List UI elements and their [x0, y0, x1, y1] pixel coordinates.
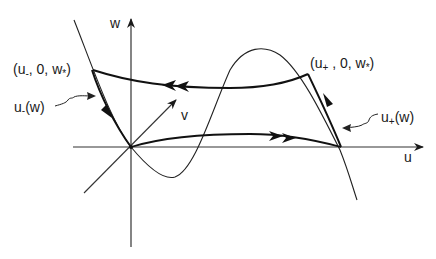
- u-axis-label: u: [404, 149, 412, 165]
- left-branch-label: u-(w): [14, 99, 45, 116]
- upper-connection-orbit: [93, 70, 308, 92]
- origin-point: [129, 145, 133, 149]
- v-axis-label: v: [181, 107, 188, 123]
- lower-connection-orbit: [131, 131, 341, 147]
- phase-space-diagram: w v u (u-, 0, w*) (u+ , 0, w*) u-(w) u+(…: [0, 0, 436, 259]
- left-branch-pointer: [55, 92, 96, 106]
- right-branch-label: u+(w): [381, 109, 414, 127]
- w-axis-label: w: [109, 15, 121, 31]
- left-point-label: (u-, 0, w*): [13, 61, 71, 79]
- right-branch-orbit: [308, 74, 341, 147]
- right-point-label: (u+ , 0, w*): [310, 55, 374, 73]
- right-branch-pointer: [342, 114, 378, 132]
- cubic-nullcline-curve: [74, 20, 357, 200]
